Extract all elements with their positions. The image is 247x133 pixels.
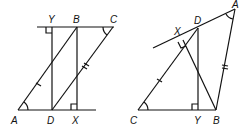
label-d-right: D — [194, 15, 201, 26]
tick-ab-1 — [222, 65, 228, 66]
label-c-left: C — [110, 14, 118, 25]
right-angle-y — [192, 104, 198, 110]
left-figure — [18, 27, 114, 110]
right-angle-x — [71, 104, 77, 110]
label-a-left: A — [10, 115, 18, 126]
segment-ab — [18, 27, 77, 110]
angle-arc-c — [103, 27, 107, 35]
label-b-right: B — [213, 115, 220, 126]
label-y-right: Y — [194, 115, 202, 126]
label-y-left: Y — [48, 14, 56, 25]
segment-ab — [216, 9, 235, 110]
label-x-right: X — [173, 26, 181, 37]
label-b-left: B — [73, 14, 80, 25]
right-figure — [138, 9, 235, 110]
label-d-left: D — [47, 115, 54, 126]
label-x-left: X — [71, 115, 79, 126]
right-angle-y — [46, 27, 52, 33]
segment-xb — [183, 40, 216, 110]
angle-arc-a — [226, 14, 233, 19]
geometry-diagram: Y B C A D X A D X C Y B — [0, 0, 247, 133]
segment-dc — [52, 27, 113, 110]
angle-arc-a — [24, 102, 28, 110]
tick-ab-2 — [222, 68, 228, 69]
label-c-right: C — [130, 115, 138, 126]
label-a-right: A — [231, 0, 239, 10]
angle-arc-c — [144, 102, 148, 110]
